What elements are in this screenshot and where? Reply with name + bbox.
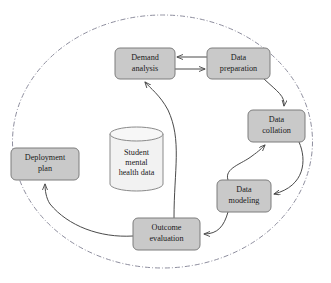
cylinder-body <box>110 134 163 191</box>
node-data-preparation[interactable]: Data preparation <box>207 48 270 79</box>
node-outcome-evaluation[interactable]: Outcome evaluation <box>133 218 200 250</box>
edge-data-preparation-to-data-collation <box>264 79 284 106</box>
node-data-collation[interactable]: Data collation <box>248 110 305 142</box>
node-demand-analysis-shape[interactable] <box>115 48 175 79</box>
workflow-diagram: Student mental health data Demand analys… <box>0 0 331 283</box>
node-deployment-plan-shape[interactable] <box>11 148 79 180</box>
diagram-canvas: Student mental health data Demand analys… <box>0 0 331 283</box>
node-data-preparation-shape[interactable] <box>207 48 270 79</box>
edge-outcome-evaluation-to-deployment-plan <box>45 184 133 236</box>
node-demand-analysis[interactable]: Demand analysis <box>115 48 175 79</box>
node-data-modeling[interactable]: Data modeling <box>217 180 271 212</box>
node-data-modeling-shape[interactable] <box>217 180 271 212</box>
edge-data-modeling-to-outcome-evaluation <box>204 212 228 234</box>
edge-data-collation-to-data-modeling <box>274 142 303 194</box>
edge-data-modeling-to-data-collation <box>227 145 265 180</box>
node-outcome-evaluation-shape[interactable] <box>133 218 200 250</box>
node-deployment-plan[interactable]: Deployment plan <box>11 148 79 180</box>
cylinder-top <box>110 127 163 141</box>
node-data-collation-shape[interactable] <box>248 110 305 142</box>
data-store-student-mental-health-data: Student mental health data <box>110 127 163 191</box>
